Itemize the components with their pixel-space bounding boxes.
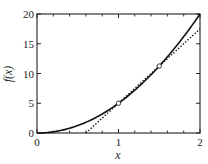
y-tick-label: 10 <box>23 68 35 80</box>
chart: 01205101520 x f(x) <box>0 0 208 164</box>
open-circle-marker <box>157 64 161 68</box>
curve-fx <box>37 14 200 133</box>
plot-frame <box>37 14 200 133</box>
y-tick-label: 20 <box>23 8 35 20</box>
x-axis-label: x <box>114 148 121 162</box>
y-axis-label: f(x) <box>1 66 15 83</box>
y-tick-label: 15 <box>23 38 35 50</box>
secant-line-dotted <box>86 29 200 133</box>
axis-ticks <box>37 14 200 133</box>
x-tick-label: 2 <box>197 136 203 148</box>
open-circle-marker <box>116 101 120 105</box>
tick-labels: 01205101520 <box>23 8 203 148</box>
x-tick-label: 1 <box>116 136 122 148</box>
y-tick-label: 5 <box>29 97 35 109</box>
series-layer <box>37 14 200 133</box>
plot-border <box>37 14 200 133</box>
y-tick-label: 0 <box>29 127 35 139</box>
x-tick-label: 0 <box>34 136 40 148</box>
